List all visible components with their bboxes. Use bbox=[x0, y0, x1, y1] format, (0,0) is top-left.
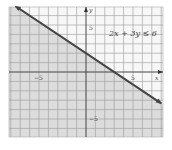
x-tick-label-neg5: −5 bbox=[34, 74, 43, 81]
inequality-label: 2x + 3y ≤ 6 bbox=[108, 29, 157, 38]
inequality-graph: x y −5 5 5 −5 2x + 3y ≤ 6 bbox=[0, 0, 172, 150]
x-tick-label-5: 5 bbox=[131, 74, 135, 81]
y-tick-label-neg5: −5 bbox=[89, 115, 98, 122]
y-axis-label: y bbox=[88, 6, 93, 14]
y-tick-label-5: 5 bbox=[89, 24, 93, 31]
